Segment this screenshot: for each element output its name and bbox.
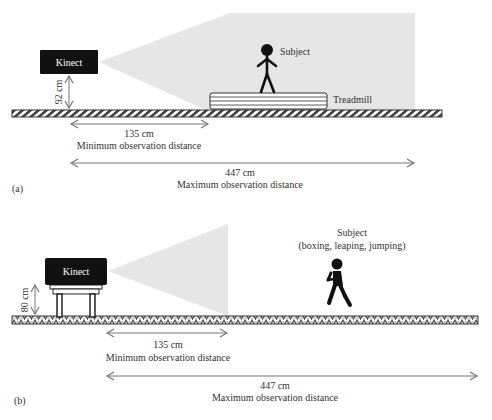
max-distance-value-a: 447 cm bbox=[225, 167, 255, 178]
min-distance-caption-b: Minimum observation distance bbox=[106, 352, 231, 363]
subject-label-b: Subject bbox=[337, 227, 367, 238]
min-distance-value-b: 135 cm bbox=[153, 339, 183, 350]
panel-tag-a: (a) bbox=[12, 183, 23, 195]
subject-label-a: Subject bbox=[280, 46, 310, 57]
subject-figure-b bbox=[328, 259, 350, 306]
max-distance-caption-b: Maximum observation distance bbox=[212, 392, 339, 403]
treadmill bbox=[210, 93, 327, 109]
kinect-label-a: Kinect bbox=[56, 57, 83, 68]
min-distance-caption-a: Minimum observation distance bbox=[77, 140, 202, 151]
kinect-field-of-view bbox=[108, 224, 228, 316]
floor-a bbox=[12, 110, 442, 117]
height-label-b: 80 cm bbox=[19, 287, 30, 312]
height-label-a: 92 cm bbox=[53, 79, 64, 104]
panel-a: Kinect 92 cm Treadmill Subject 135 cm Mi… bbox=[12, 13, 442, 195]
panel-tag-b: (b) bbox=[14, 395, 26, 407]
max-distance-value-b: 447 cm bbox=[260, 380, 290, 391]
panel-b: Kinect 80 cm Subject (boxing, leaping, j… bbox=[12, 224, 478, 407]
treadmill-label: Treadmill bbox=[333, 94, 372, 105]
kinect-label-b: Kinect bbox=[63, 266, 90, 277]
max-distance-caption-a: Maximum observation distance bbox=[177, 179, 304, 190]
figure-canvas: Kinect 92 cm Treadmill Subject 135 cm Mi… bbox=[0, 0, 492, 420]
kinect-table bbox=[50, 285, 102, 317]
subject-activities-label: (boxing, leaping, jumping) bbox=[298, 240, 405, 252]
min-distance-value-a: 135 cm bbox=[124, 128, 154, 139]
floor-b bbox=[12, 316, 478, 324]
